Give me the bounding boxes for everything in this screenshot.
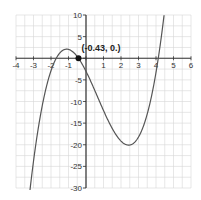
x-tick-label: 1 (101, 61, 106, 70)
x-tick-label: 5 (171, 61, 176, 70)
x-tick-label: 2 (119, 61, 124, 70)
cubic-function-plot: -4-3-2-1123456 105-5-10-15-20-25-30 (-0.… (0, 0, 201, 200)
x-tick-label: 3 (136, 61, 141, 70)
root-point-label: (-0.43, 0.) (81, 43, 120, 53)
x-tick-label: -4 (12, 61, 20, 70)
y-tick-label: -5 (75, 76, 83, 85)
x-tick-label: -3 (30, 61, 38, 70)
y-tick-label: -10 (70, 98, 82, 107)
cubic-curve (30, 15, 164, 190)
y-axis-tick-labels: 105-5-10-15-20-25-30 (70, 11, 82, 193)
y-tick-label: 10 (73, 11, 82, 20)
x-tick-label: 6 (189, 61, 194, 70)
y-tick-label: -30 (70, 184, 82, 193)
y-tick-label: -15 (70, 119, 82, 128)
y-tick-label: -25 (70, 162, 82, 171)
grid-lines (16, 15, 191, 188)
x-tick-label: -1 (65, 61, 73, 70)
y-tick-label: 5 (78, 33, 83, 42)
root-point-marker[interactable] (75, 55, 81, 61)
y-tick-label: -20 (70, 141, 82, 150)
